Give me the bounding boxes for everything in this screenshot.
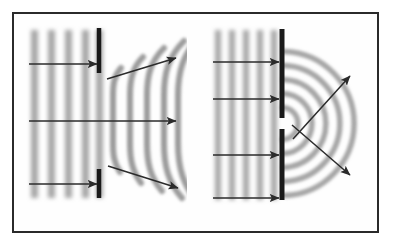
diffraction-diagram-svg — [0, 0, 394, 246]
diffraction-figure — [0, 0, 394, 246]
